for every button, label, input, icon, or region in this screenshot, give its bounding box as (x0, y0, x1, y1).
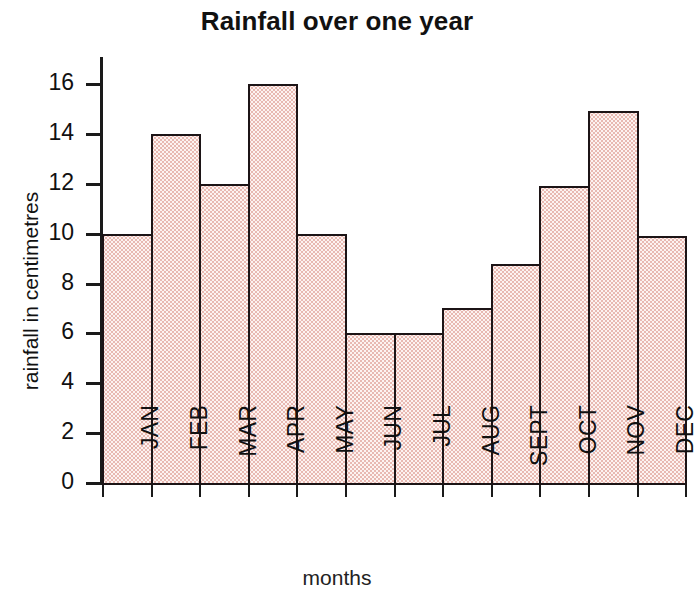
x-axis-title: months (0, 566, 674, 590)
x-axis-label-jan: JAN (137, 405, 164, 500)
x-axis-label-nov: NOV (623, 405, 650, 500)
x-axis-label-aug: AUG (478, 405, 505, 500)
x-axis-label-jul: JUL (429, 405, 456, 500)
x-axis-label-oct: OCT (575, 405, 602, 500)
x-axis-label-sept: SEPT (526, 405, 553, 500)
x-axis-label-may: MAY (332, 405, 359, 500)
x-axis-label-mar: MAR (235, 405, 262, 500)
x-axis-label-jun: JUN (380, 405, 407, 500)
x-axis-label-dec: DEC (672, 405, 698, 500)
x-axis-label-apr: APR (283, 405, 310, 500)
x-axis-label-feb: FEB (186, 405, 213, 500)
